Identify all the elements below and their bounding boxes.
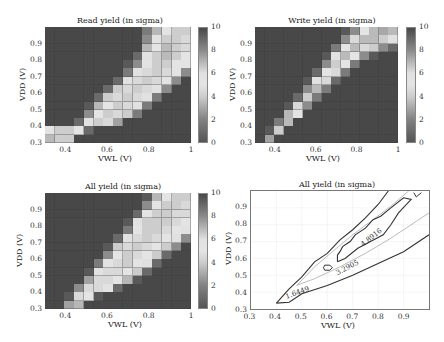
colorbar-tick-label: 6 [419, 68, 424, 77]
heatmap-cell [152, 135, 162, 143]
y-tick-label: 0.4 [240, 121, 252, 130]
colorbar-tick-label: 10 [419, 22, 429, 31]
chart-title: All yield (in sigma) [287, 180, 387, 189]
write-yield-heatmap [255, 27, 398, 143]
y-tick-label: 0.8 [30, 221, 42, 230]
x-tick-label: 0.6 [101, 145, 113, 154]
y-axis-label: VDD (V) [228, 68, 237, 101]
heatmap-cell [162, 135, 172, 143]
heatmap-cell [45, 135, 55, 143]
heatmap-cell [255, 135, 265, 143]
chart-title: Write yield (in sigma) [282, 16, 382, 25]
y-tick-label: 0.6 [30, 254, 42, 263]
y-tick-label: 0.6 [30, 88, 42, 97]
y-tick-label: 0.7 [30, 72, 42, 81]
x-tick-label: 0.4 [269, 145, 281, 154]
colorbar [198, 193, 208, 309]
heatmap-cell [293, 135, 303, 143]
colorbar-tick-label: 2 [211, 115, 216, 124]
y-tick-label: 0.8 [240, 55, 252, 64]
heatmap-cell [172, 135, 182, 143]
x-tick-label: 0.8 [143, 311, 155, 320]
x-tick-label: 0.4 [59, 311, 71, 320]
y-axis-label: VDD (V) [18, 68, 27, 101]
x-tick-label: 0.6 [101, 311, 113, 320]
y-tick-label: 0.5 [30, 105, 42, 114]
heatmap-cell [123, 135, 133, 143]
x-tick-label: 0.7 [346, 312, 358, 321]
x-tick-label: 0.6 [321, 312, 333, 321]
heatmap-cell [133, 301, 143, 309]
read-yield-heatmap [45, 27, 191, 143]
heatmap-cell [162, 301, 172, 309]
y-tick-label: 0.7 [240, 72, 252, 81]
heatmap-cell [341, 135, 351, 143]
heatmap-cell [142, 301, 152, 309]
heatmap-cell [74, 135, 84, 143]
colorbar-tick-label: 8 [211, 211, 216, 220]
colorbar-tick-label: 4 [419, 92, 424, 101]
x-tick-label: 0.8 [372, 312, 384, 321]
colorbar-tick-label: 4 [211, 92, 216, 101]
chart-title: All yield (in sigma) [73, 182, 173, 191]
x-axis-label: VWL (V) [306, 154, 340, 163]
colorbar-tick-label: 2 [211, 281, 216, 290]
colorbar [198, 27, 208, 143]
contour-line [414, 193, 422, 197]
heatmap-cell [322, 135, 332, 143]
contour-label: 1.6449 [285, 285, 311, 301]
heatmap-cell [369, 135, 379, 143]
x-axis-label: VWL (V) [321, 321, 355, 330]
y-tick-label: 0.3 [235, 305, 247, 314]
x-tick-label: 0.8 [351, 145, 363, 154]
heatmap-cell [94, 301, 104, 309]
heatmap-cell [181, 301, 191, 309]
heatmap-cell [360, 135, 370, 143]
heatmap-cell [142, 135, 152, 143]
y-tick-label: 0.4 [30, 287, 42, 296]
y-tick-label: 0.4 [235, 288, 247, 297]
x-tick-label: 0.4 [59, 145, 71, 154]
y-tick-label: 0.8 [235, 219, 247, 228]
colorbar-tick-label: 6 [211, 68, 216, 77]
heatmap-cell [74, 301, 84, 309]
colorbar-tick-label: 0 [211, 304, 216, 313]
y-tick-label: 0.6 [235, 254, 247, 263]
heatmap-cell [94, 135, 104, 143]
contour-line [297, 213, 429, 285]
heatmap-cell [103, 301, 113, 309]
y-tick-label: 0.7 [30, 238, 42, 247]
heatmap-cell [350, 135, 360, 143]
y-axis-label: VDD (V) [224, 232, 233, 265]
colorbar-tick-label: 10 [211, 188, 221, 197]
x-tick-label: 0.4 [269, 312, 281, 321]
heatmap-cell [181, 135, 191, 143]
heatmap-cell [388, 135, 398, 143]
heatmap-cell [84, 301, 94, 309]
colorbar-tick-label: 0 [419, 138, 424, 147]
contour-plot: 1.64493.29054.8916 [250, 190, 430, 310]
y-tick-label: 0.9 [30, 39, 42, 48]
heatmap-cell [113, 135, 123, 143]
x-tick-label: 0.5 [295, 312, 307, 321]
heatmap-cell [284, 135, 294, 143]
heatmap-cell [172, 301, 182, 309]
x-tick-label: 1 [189, 145, 194, 154]
heatmap-cell [55, 301, 65, 309]
y-tick-label: 0.3 [30, 138, 42, 147]
x-tick-label: 0.8 [143, 145, 155, 154]
x-axis-label: VWL (V) [108, 320, 142, 329]
heatmap-cell [64, 135, 74, 143]
heatmap-cell [113, 301, 123, 309]
heatmap-cell [303, 135, 313, 143]
colorbar-tick-label: 4 [211, 258, 216, 267]
heatmap-cell [55, 135, 65, 143]
y-tick-label: 0.5 [235, 271, 247, 280]
heatmap-cell [265, 135, 275, 143]
colorbar-tick-label: 10 [211, 22, 221, 31]
colorbar-tick-label: 6 [211, 234, 216, 243]
y-tick-label: 0.7 [235, 236, 247, 245]
heatmap-cell [274, 135, 284, 143]
heatmap-cell [379, 135, 389, 143]
x-tick-label: 1 [396, 145, 401, 154]
